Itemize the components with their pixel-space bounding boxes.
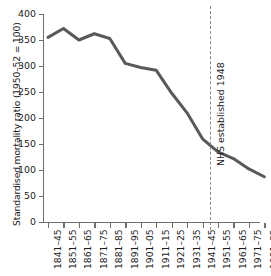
nhs-event-line	[210, 6, 211, 230]
nhs-event-label: NHS established 1948	[215, 62, 226, 166]
x-axis-tick-label: 1941–45	[206, 229, 217, 269]
y-axis-tick-label: 350	[18, 34, 36, 45]
x-axis-tick-label: 1841–45	[52, 229, 63, 269]
y-axis-title: Standardised mortality ratio (1950–52 = …	[0, 0, 14, 228]
x-axis-tick	[249, 223, 250, 228]
x-axis-tick	[110, 223, 111, 228]
x-axis-tick-label: 1961–65	[237, 229, 248, 269]
y-axis-tick: 50	[39, 196, 43, 197]
x-axis-tick	[233, 223, 234, 228]
y-axis-tick: 100	[39, 170, 43, 171]
x-axis-tick	[48, 223, 49, 228]
x-axis-tick-label: 1901–05	[144, 229, 155, 269]
y-axis-tick: 200	[39, 118, 43, 119]
x-axis-tick	[79, 223, 80, 228]
x-axis-tick-label: 1891–95	[129, 229, 140, 269]
y-axis-tick: 250	[39, 92, 43, 93]
x-axis-tick-label: 1971–75	[252, 229, 263, 269]
x-axis-tick-label: 1951–55	[221, 229, 232, 269]
y-axis-title-text: Standardised mortality ratio (1950–52 = …	[11, 22, 22, 226]
x-axis-tick	[187, 223, 188, 228]
y-axis-tick-label: 0	[30, 216, 36, 227]
y-axis-tick: 300	[39, 66, 43, 67]
plot-area	[43, 12, 259, 223]
x-axis-tick	[141, 223, 142, 228]
x-axis-tick	[218, 223, 219, 228]
x-axis-tick-label: 1931–35	[191, 229, 202, 269]
x-axis-tick	[203, 223, 204, 228]
x-axis-ticks: 1841–451851–551861–651871–751881–851891–…	[43, 223, 260, 276]
y-axis-tick: 400	[39, 14, 43, 15]
series-line	[43, 12, 259, 223]
y-axis-tick-label: 200	[18, 112, 36, 123]
y-axis-tick-label: 250	[18, 86, 36, 97]
x-axis-tick-label: 1981–85	[268, 229, 271, 269]
x-axis-tick	[156, 223, 157, 228]
x-axis-tick-label: 1921–25	[175, 229, 186, 269]
x-axis-tick	[94, 223, 95, 228]
x-axis-tick-label: 1871–75	[98, 229, 109, 269]
y-axis-tick: 150	[39, 144, 43, 145]
x-axis-tick	[172, 223, 173, 228]
y-axis-tick-label: 50	[24, 190, 36, 201]
y-axis-tick-label: 400	[18, 8, 36, 19]
x-axis-tick-label: 1881–85	[113, 229, 124, 269]
mortality-ratio-line-chart: Standardised mortality ratio (1950–52 = …	[0, 0, 271, 276]
y-axis-tick-label: 300	[18, 60, 36, 71]
y-axis-tick-label: 100	[18, 164, 36, 175]
x-axis-tick	[125, 223, 126, 228]
x-axis-tick-label: 1861–65	[82, 229, 93, 269]
y-axis-tick: 350	[39, 40, 43, 41]
x-axis-tick	[63, 223, 64, 228]
x-axis-tick-label: 1851–55	[67, 229, 78, 269]
y-axis-tick-label: 150	[18, 138, 36, 149]
x-axis-tick	[264, 223, 265, 228]
x-axis-tick-label: 1911–15	[160, 229, 171, 269]
